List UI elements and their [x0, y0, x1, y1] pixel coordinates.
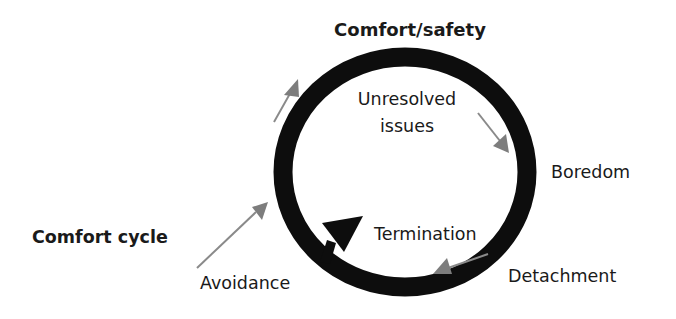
stage-unresolved-line1: Unresolved — [358, 89, 456, 109]
stage-avoidance: Avoidance — [200, 273, 290, 293]
termination-arrow — [320, 216, 363, 264]
stage-detachment: Detachment — [508, 266, 616, 286]
top-label: Comfort/safety — [334, 19, 486, 40]
comfort-cycle-diagram: Comfort/safety Unresolved issues Boredom… — [0, 0, 676, 319]
avoidance-arrow — [197, 202, 268, 268]
stage-unresolved-line2: issues — [380, 116, 434, 136]
stage-boredom: Boredom — [551, 162, 630, 182]
stage-termination: Termination — [373, 224, 477, 244]
diagram-title: Comfort cycle — [32, 227, 168, 247]
